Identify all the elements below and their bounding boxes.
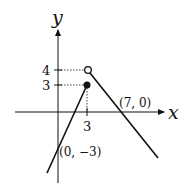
y-intercept-label: (0, −3) bbox=[59, 145, 101, 159]
tick-y4-label: 4 bbox=[42, 63, 50, 78]
left-segment bbox=[47, 85, 87, 173]
x-intercept-label: (7, 0) bbox=[119, 96, 151, 110]
open-circle-point bbox=[85, 67, 92, 74]
closed-circle-point bbox=[84, 82, 91, 89]
tick-y3-label: 3 bbox=[42, 78, 50, 93]
y-axis-label: y bbox=[51, 6, 63, 28]
piecewise-graph: y x 4 3 3 (7, 0) (0, −3) bbox=[0, 0, 188, 186]
graph-canvas: y x 4 3 3 (7, 0) (0, −3) bbox=[0, 0, 188, 186]
x-axis-label: x bbox=[168, 101, 179, 123]
tick-x3-label: 3 bbox=[83, 119, 91, 134]
